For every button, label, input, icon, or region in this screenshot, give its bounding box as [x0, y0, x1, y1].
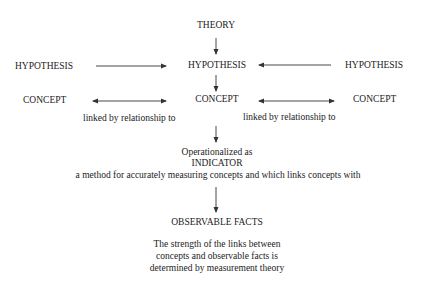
hypothesis-left: HYPOTHESIS [15, 61, 73, 72]
theory-label: THEORY [197, 20, 235, 31]
indicator-description: a method for accurately measuring concep… [76, 170, 361, 181]
concept-center: CONCEPT [195, 94, 238, 105]
concept-right: CONCEPT [353, 94, 396, 105]
concept-left: CONCEPT [23, 95, 66, 106]
link-label-right: linked by relationship to [243, 112, 336, 123]
hypothesis-center: HYPOTHESIS [188, 60, 246, 71]
observable-facts-label: OBSERVABLE FACTS [171, 217, 263, 228]
note-line-3: determined by measurement theory [150, 263, 284, 274]
note-line-1: The strength of the links between [154, 239, 281, 250]
operationalized-label: Operationalized as [182, 147, 253, 158]
hypothesis-right: HYPOTHESIS [345, 60, 403, 71]
indicator-label: INDICATOR [191, 158, 242, 169]
note-line-2: concepts and observable facts is [156, 251, 278, 262]
link-label-left: linked by relationship to [83, 113, 176, 124]
